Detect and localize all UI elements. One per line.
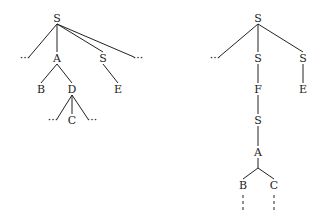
- tree-nodes: S···AS···BDE···C···S···SSFESABC: [20, 12, 307, 192]
- tree-node-s: S: [254, 52, 262, 65]
- ellipsis-node: ···: [133, 52, 144, 65]
- tree-node-e: E: [299, 83, 307, 96]
- tree-node-s: S: [254, 114, 262, 127]
- tree-node-d: D: [68, 83, 77, 96]
- tree-node-s: S: [99, 52, 107, 65]
- tree-edge: [41, 64, 57, 83]
- tree-node-s: S: [299, 52, 307, 65]
- ellipsis-node: ···: [210, 52, 221, 65]
- tree-edge: [103, 64, 118, 83]
- tree-node-a: A: [52, 52, 62, 65]
- tree-node-e: E: [114, 83, 122, 96]
- tree-edge: [57, 24, 134, 57]
- tree-node-s: S: [53, 12, 61, 25]
- tree-edge: [243, 168, 258, 179]
- tree-edge: [258, 24, 303, 52]
- tree-node-b: B: [37, 83, 45, 96]
- tree-edge: [57, 64, 72, 83]
- ellipsis-node: ···: [87, 114, 98, 127]
- tree-node-f: F: [254, 83, 262, 96]
- tree-node-s: S: [254, 12, 262, 25]
- ellipsis-node: ···: [48, 114, 59, 127]
- ellipsis-node: ···: [20, 52, 31, 65]
- parse-tree-diagram: S···AS···BDE···C···S···SSFESABC: [0, 0, 321, 217]
- tree-node-b: B: [239, 179, 247, 192]
- tree-node-a: A: [253, 146, 263, 159]
- tree-node-c: C: [270, 179, 278, 192]
- tree-node-c: C: [68, 114, 76, 127]
- tree-edge: [219, 24, 258, 57]
- tree-edge: [57, 24, 103, 52]
- tree-edge: [258, 168, 274, 179]
